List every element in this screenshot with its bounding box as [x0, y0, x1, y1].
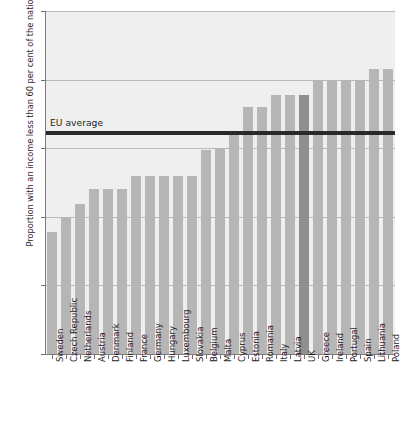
x-tick-mark	[262, 355, 263, 359]
x-tick-mark	[276, 355, 277, 359]
x-tick-label: Greece	[321, 332, 331, 362]
bar-poland	[383, 69, 393, 354]
x-tick-mark	[248, 355, 249, 359]
x-tick-mark	[94, 355, 95, 359]
x-tick-mark	[304, 355, 305, 359]
y-tick-mark	[41, 285, 45, 286]
bar-portugal	[341, 80, 351, 354]
x-tick-label: Ireland	[335, 333, 345, 362]
x-tick-mark	[332, 355, 333, 359]
x-tick-mark	[122, 355, 123, 359]
y-tick-mark	[41, 80, 45, 81]
x-tick-label: Lithuania	[377, 323, 387, 362]
x-tick-mark	[290, 355, 291, 359]
x-tick-mark	[206, 355, 207, 359]
bar-series	[45, 11, 395, 354]
x-tick-mark	[360, 355, 361, 359]
bar-ireland	[327, 80, 337, 354]
x-tick-label: Malta	[223, 339, 233, 362]
bar-france	[131, 176, 141, 354]
plot-area: EU average	[45, 11, 395, 354]
x-tick-label: Denmark	[111, 323, 121, 362]
eu-average-label: EU average	[50, 117, 103, 128]
bar-romania	[257, 107, 267, 354]
x-tick-mark	[346, 355, 347, 359]
y-axis-line	[45, 11, 46, 355]
x-tick-label: Netherlands	[83, 311, 93, 362]
y-tick-mark	[41, 354, 45, 355]
y-axis-title: Proportion with an income less than 60 p…	[25, 0, 35, 280]
x-tick-mark	[318, 355, 319, 359]
y-tick-mark	[41, 148, 45, 149]
bar-belgium	[201, 150, 211, 354]
bar-estonia	[243, 107, 253, 354]
x-tick-mark	[108, 355, 109, 359]
x-tick-label: UK	[307, 350, 317, 362]
x-tick-label: Hungary	[167, 326, 177, 362]
x-tick-mark	[192, 355, 193, 359]
x-tick-label: Belgium	[209, 328, 219, 363]
x-tick-label: Luxembourg	[181, 310, 191, 362]
bar-lithuania	[369, 69, 379, 354]
x-tick-label: Spain	[363, 339, 373, 363]
x-tick-mark	[52, 355, 53, 359]
bar-spain	[355, 80, 365, 354]
x-tick-mark	[136, 355, 137, 359]
bar-malta	[215, 148, 225, 354]
x-tick-mark	[150, 355, 151, 359]
y-tick-mark	[41, 217, 45, 218]
x-tick-label: Czech Republic	[69, 298, 79, 362]
x-tick-mark	[374, 355, 375, 359]
x-tick-mark	[388, 355, 389, 359]
x-tick-mark	[80, 355, 81, 359]
x-tick-mark	[164, 355, 165, 359]
x-tick-label: Sweden	[55, 329, 65, 362]
bar-cyprus	[229, 133, 239, 354]
x-tick-label: France	[139, 334, 149, 362]
eu-average-line	[45, 131, 395, 135]
x-tick-label: Latvia	[293, 336, 303, 362]
y-tick-mark	[41, 11, 45, 12]
x-tick-label: Estonia	[251, 331, 261, 362]
x-tick-mark	[178, 355, 179, 359]
x-tick-label: Poland	[391, 334, 401, 362]
bar-greece	[313, 80, 323, 354]
x-tick-label: Germany	[153, 323, 163, 362]
x-tick-label: Austria	[97, 332, 107, 362]
x-tick-mark	[66, 355, 67, 359]
x-tick-label: Italy	[279, 344, 289, 362]
x-tick-label: Romania	[265, 325, 275, 362]
x-tick-label: Cyprus	[237, 333, 247, 362]
x-tick-label: Slovakia	[195, 327, 205, 362]
x-tick-label: Finland	[125, 332, 135, 362]
x-tick-label: Portugal	[349, 327, 359, 362]
x-tick-mark	[220, 355, 221, 359]
x-tick-mark	[234, 355, 235, 359]
